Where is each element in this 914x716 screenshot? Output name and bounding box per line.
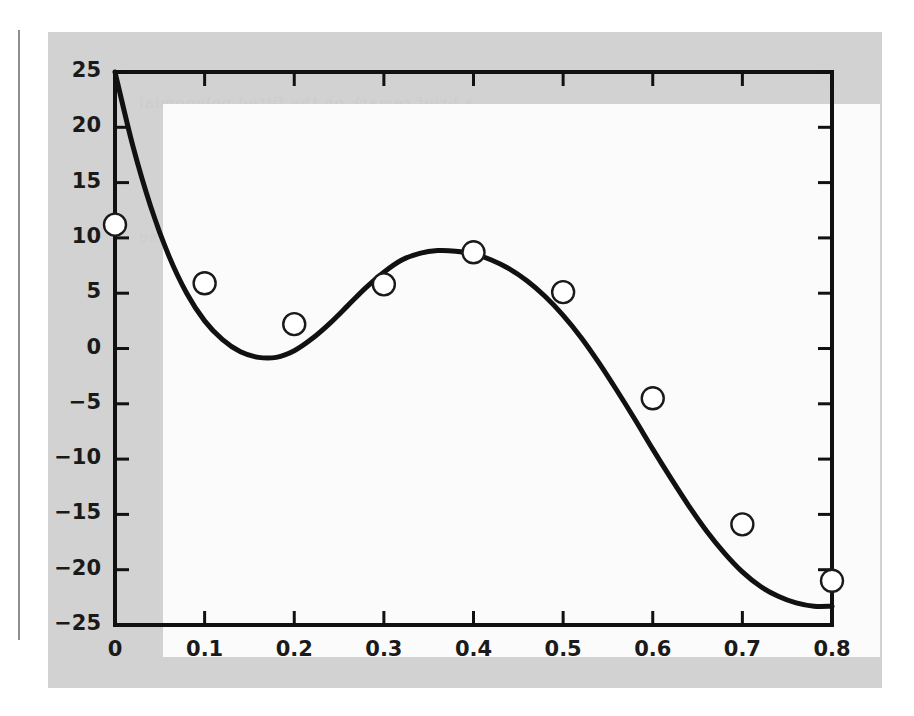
data-point-marker — [731, 513, 753, 535]
chart-svg — [48, 32, 882, 688]
data-point-marker — [463, 241, 485, 263]
x-tick-label: 0 — [80, 637, 150, 661]
y-tick-label: −20 — [39, 556, 101, 580]
page-margin-rule — [18, 30, 20, 640]
x-tick-label: 0.5 — [528, 637, 598, 661]
y-tick-label: −15 — [39, 500, 101, 524]
x-tick-label: 0.2 — [259, 637, 329, 661]
data-point-marker — [642, 387, 664, 409]
figure-panel: a brief remark on the fitted polynomialt… — [48, 32, 882, 688]
data-point-marker — [104, 214, 126, 236]
y-tick-label: 20 — [39, 113, 101, 137]
x-tick-label: 0.1 — [170, 637, 240, 661]
y-tick-label: −10 — [39, 445, 101, 469]
y-tick-label: 0 — [39, 335, 101, 359]
data-point-marker — [373, 273, 395, 295]
y-tick-label: −25 — [39, 611, 101, 635]
x-tick-label: 0.7 — [707, 637, 777, 661]
axis-ticks-group — [115, 72, 832, 625]
x-tick-label: 0.8 — [797, 637, 867, 661]
data-point-marker — [194, 272, 216, 294]
y-tick-label: 25 — [39, 58, 101, 82]
x-tick-label: 0.3 — [349, 637, 419, 661]
data-point-markers — [104, 214, 843, 592]
data-point-marker — [821, 570, 843, 592]
data-point-marker — [552, 281, 574, 303]
y-tick-label: −5 — [39, 390, 101, 414]
x-tick-label: 0.4 — [439, 637, 509, 661]
x-tick-label: 0.6 — [618, 637, 688, 661]
y-tick-label: 10 — [39, 224, 101, 248]
y-tick-label: 15 — [39, 169, 101, 193]
fitted-curve — [115, 72, 832, 606]
data-point-marker — [283, 313, 305, 335]
y-tick-label: 5 — [39, 279, 101, 303]
axes-group — [115, 72, 832, 625]
